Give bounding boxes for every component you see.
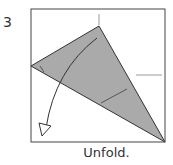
- origami-diagram: [0, 0, 173, 165]
- instruction-caption: Unfold.: [0, 145, 173, 160]
